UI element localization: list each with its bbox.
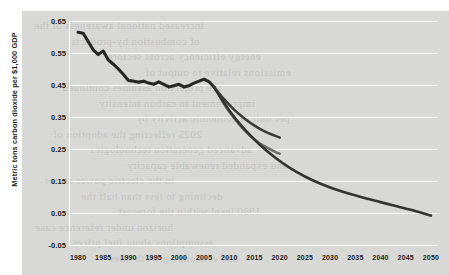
chart-figure: increased national awareness of theof co… — [0, 0, 449, 275]
series-line — [214, 87, 280, 137]
data-series-layer — [0, 0, 449, 275]
series-line — [78, 32, 214, 87]
series-line — [214, 87, 431, 215]
